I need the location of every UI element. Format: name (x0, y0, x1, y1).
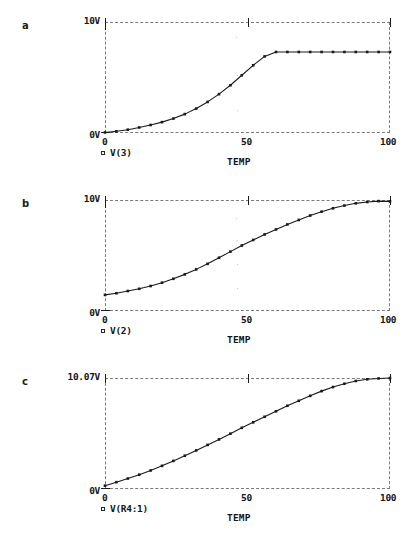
x-tick-label-100-c: 100 (380, 492, 396, 503)
legend-a: V(3) (101, 147, 132, 158)
legend-c: V(R4:1) (101, 503, 148, 514)
legend-marker-icon (101, 329, 105, 333)
legend-marker-icon (101, 507, 105, 511)
plot-area-a: 10V 0V 0 50 100 V(3) TEMP (105, 22, 390, 133)
x-axis-title-c: TEMP (227, 512, 251, 523)
panel-letter-a: a (22, 20, 29, 31)
plot-area-c: 10.07V 0V 0 50 100 V(R4:1) TEMP (105, 378, 390, 489)
x-tick-label-100-a: 100 (380, 136, 396, 147)
plot-curve-c (105, 378, 390, 489)
panel-letter-b: b (22, 198, 29, 209)
x-tick-label-50-c: 50 (241, 492, 252, 503)
x-tick-label-50-b: 50 (241, 314, 252, 325)
x-tick-label-100-b: 100 (380, 314, 396, 325)
x-tick-mark-100-b (390, 196, 391, 205)
x-tick-mark-0-a (105, 18, 106, 27)
artifact-speck (237, 264, 238, 265)
x-tick-mark-50-a (248, 18, 249, 27)
artifact-speck (237, 288, 238, 289)
legend-label-b: V(2) (110, 325, 132, 336)
x-tick-label-0-c: 0 (102, 492, 107, 503)
x-tick-label-0-b: 0 (102, 314, 107, 325)
panel-letter-c: c (22, 376, 28, 387)
x-tick-mark-100-a (390, 18, 391, 27)
x-axis-title-a: TEMP (227, 156, 251, 167)
x-tick-label-0-a: 0 (102, 136, 107, 147)
legend-b: V(2) (101, 325, 132, 336)
x-tick-mark-0-c (105, 374, 106, 383)
y-axis-top-label-a: 10V (84, 15, 105, 26)
x-tick-label-50-a: 50 (241, 136, 252, 147)
x-tick-mark-0-b (105, 196, 106, 205)
legend-label-a: V(3) (110, 147, 132, 158)
chart-panel-c: c 10.07V 0V 0 50 100 V(R4:1) TEMP (0, 356, 414, 535)
chart-panel-a: a 10V 0V 0 50 100 V(3) TEMP (0, 0, 414, 178)
plot-curve-a (105, 22, 390, 133)
y-axis-top-label-c: 10.07V (67, 371, 105, 382)
x-tick-mark-50-b (248, 196, 249, 205)
x-tick-mark-100-c (390, 374, 391, 383)
legend-marker-icon (101, 151, 105, 155)
pspice-dc-sweep-figure: { "figure": { "background": "#ffffff", "… (0, 0, 414, 535)
legend-label-c: V(R4:1) (110, 503, 148, 514)
artifact-speck (237, 240, 238, 241)
x-tick-mark-50-c (248, 374, 249, 383)
artifact-speck (236, 218, 237, 219)
artifact-speck (237, 110, 238, 111)
artifact-speck (237, 75, 238, 76)
chart-panel-b: b 10V 0V 0 50 100 V(2) TEMP (0, 178, 414, 356)
plot-area-b: 10V 0V 0 50 100 V(2) TEMP (105, 200, 390, 311)
x-axis-title-b: TEMP (227, 334, 251, 345)
plot-curve-b (105, 200, 390, 311)
y-axis-top-label-b: 10V (84, 193, 105, 204)
artifact-speck (236, 37, 237, 38)
